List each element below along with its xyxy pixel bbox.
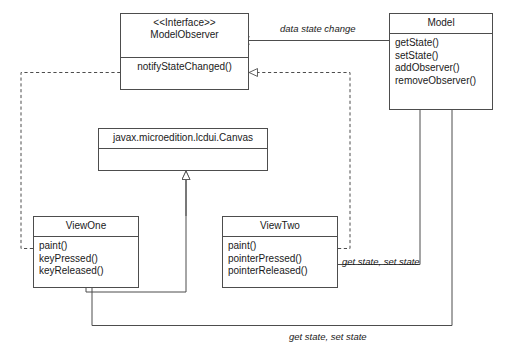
class-title-model-observer: <<Interface>> ModelObserver — [121, 14, 248, 58]
member-remove-observer: removeObserver() — [395, 75, 487, 88]
edge-label-get-set-state-view-two: get state, set state — [342, 256, 420, 267]
member-paint-view-two: paint() — [228, 240, 332, 253]
class-name-canvas: javax.microedition.lcdui.Canvas — [103, 132, 263, 144]
class-title-model: Model — [390, 14, 492, 34]
class-box-canvas[interactable]: javax.microedition.lcdui.Canvas — [98, 128, 268, 171]
member-paint-view-one: paint() — [39, 240, 133, 253]
class-title-view-one: ViewOne — [34, 217, 138, 237]
class-members-model: getState() setState() addObserver() remo… — [390, 34, 492, 91]
member-pointer-pressed: pointerPressed() — [228, 253, 332, 266]
class-title-canvas: javax.microedition.lcdui.Canvas — [99, 129, 267, 149]
class-box-model-observer[interactable]: <<Interface>> ModelObserver notifyStateC… — [120, 13, 249, 90]
class-name-model: Model — [394, 17, 488, 29]
edge-label-data-state-change: data state change — [280, 23, 356, 34]
class-box-view-two[interactable]: ViewTwo paint() pointerPressed() pointer… — [222, 216, 338, 288]
uml-class-diagram: <<Interface>> ModelObserver notifyStateC… — [0, 0, 513, 354]
class-members-model-observer: notifyStateChanged() — [121, 58, 248, 78]
member-key-pressed: keyPressed() — [39, 253, 133, 266]
member-notify-state-changed: notifyStateChanged() — [125, 61, 244, 74]
class-name-model-observer: ModelObserver — [125, 29, 244, 41]
class-title-view-two: ViewTwo — [223, 217, 337, 237]
class-stereotype-model-observer: <<Interface>> — [125, 17, 244, 29]
class-box-view-one[interactable]: ViewOne paint() keyPressed() keyReleased… — [33, 216, 139, 288]
member-get-state: getState() — [395, 37, 487, 50]
member-pointer-released: pointerReleased() — [228, 265, 332, 278]
class-name-view-one: ViewOne — [38, 220, 134, 232]
member-set-state: setState() — [395, 50, 487, 63]
class-box-model[interactable]: Model getState() setState() addObserver(… — [389, 13, 493, 110]
class-name-view-two: ViewTwo — [227, 220, 333, 232]
edge-label-get-set-state-view-one: get state, set state — [289, 331, 367, 342]
member-key-released: keyReleased() — [39, 265, 133, 278]
class-members-view-one: paint() keyPressed() keyReleased() — [34, 237, 138, 282]
class-members-view-two: paint() pointerPressed() pointerReleased… — [223, 237, 337, 282]
member-add-observer: addObserver() — [395, 62, 487, 75]
class-members-canvas — [99, 149, 267, 162]
